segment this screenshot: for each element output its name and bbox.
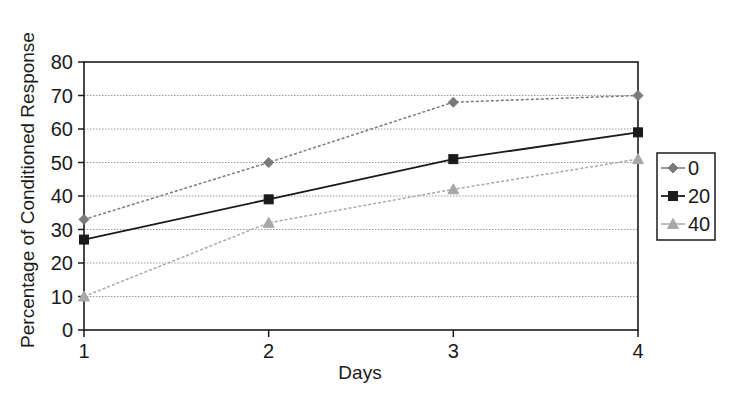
y-axis-label: Percentage of Conditioned Response <box>17 32 38 348</box>
y-axis: 01020304050607080 <box>51 51 84 341</box>
diamond-marker <box>633 91 643 101</box>
x-tick-label: 2 <box>263 340 274 362</box>
x-axis-label: Days <box>338 362 381 383</box>
x-tick-label: 1 <box>78 340 89 362</box>
line-chart: 01020304050607080 1234 Days Percentage o… <box>0 0 731 395</box>
series-20 <box>80 128 643 244</box>
legend-label: 20 <box>688 185 710 207</box>
legend-square-icon <box>669 192 678 201</box>
x-tick-label: 3 <box>448 340 459 362</box>
square-marker <box>264 195 273 204</box>
x-axis: 1234 <box>78 330 643 362</box>
series-0 <box>79 91 643 225</box>
square-marker <box>449 155 458 164</box>
triangle-marker <box>633 154 644 164</box>
y-tick-label: 80 <box>51 51 73 73</box>
diamond-marker <box>79 214 89 224</box>
diamond-marker <box>264 158 274 168</box>
series-40 <box>79 154 644 301</box>
y-tick-label: 40 <box>51 185 73 207</box>
diamond-marker <box>448 97 458 107</box>
gridlines <box>84 96 638 297</box>
y-tick-label: 30 <box>51 219 73 241</box>
y-tick-label: 20 <box>51 252 73 274</box>
y-tick-label: 60 <box>51 118 73 140</box>
square-marker <box>634 128 643 137</box>
y-tick-label: 50 <box>51 152 73 174</box>
legend: 02040 <box>657 153 715 240</box>
legend-label: 40 <box>688 213 710 235</box>
legend-label: 0 <box>688 157 699 179</box>
y-tick-label: 70 <box>51 85 73 107</box>
x-tick-label: 4 <box>632 340 643 362</box>
y-tick-label: 0 <box>62 319 73 341</box>
series-line <box>84 132 638 239</box>
series-line <box>84 96 638 220</box>
square-marker <box>80 235 89 244</box>
y-tick-label: 10 <box>51 286 73 308</box>
